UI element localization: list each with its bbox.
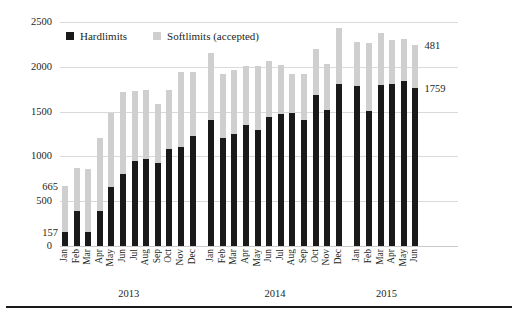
- bar-segment-softlimits: [378, 33, 384, 85]
- bar-segment-hardlimits: [97, 211, 103, 246]
- x-tick-label-29: Jun: [410, 249, 422, 262]
- legend-item-hard[interactable]: Hardlimits: [66, 30, 127, 42]
- y-tick-label-500: 500: [6, 196, 52, 206]
- bar-segment-softlimits: [266, 61, 272, 117]
- gridline-0: [60, 246, 458, 247]
- group-label-2013: 2013: [62, 288, 196, 299]
- bar-Apr-15[interactable]: [243, 66, 249, 246]
- bar-segment-hardlimits: [401, 81, 407, 246]
- bar-segment-softlimits: [155, 104, 161, 162]
- bar-segment-hardlimits: [166, 149, 172, 246]
- bar-segment-hardlimits: [278, 114, 284, 246]
- group-label-2015: 2015: [354, 288, 418, 299]
- y-tick-label-1500: 1500: [6, 107, 52, 117]
- legend-label: Hardlimits: [80, 30, 127, 42]
- bar-segment-hardlimits: [220, 138, 226, 246]
- bar-segment-hardlimits: [266, 117, 272, 246]
- bar-Oct-9[interactable]: [166, 90, 172, 246]
- gridline-2500: [60, 22, 458, 23]
- bar-May-4[interactable]: [108, 113, 114, 247]
- bar-segment-hardlimits: [143, 159, 149, 246]
- annotation-481: 481: [424, 41, 440, 52]
- bar-May-28[interactable]: [401, 39, 407, 246]
- y-tick-label-0: 0: [6, 241, 52, 251]
- bar-segment-softlimits: [324, 64, 330, 110]
- bar-segment-hardlimits: [336, 84, 342, 246]
- bar-segment-softlimits: [301, 74, 307, 121]
- bar-segment-hardlimits: [155, 163, 161, 246]
- bar-Dec-23[interactable]: [336, 28, 342, 246]
- bar-segment-hardlimits: [85, 232, 91, 246]
- bar-segment-softlimits: [190, 72, 196, 136]
- bar-segment-softlimits: [97, 138, 103, 211]
- bar-Feb-13[interactable]: [220, 74, 226, 246]
- y-tick-label-2500: 2500: [6, 17, 52, 27]
- bar-segment-hardlimits: [255, 130, 261, 246]
- bar-segment-softlimits: [366, 43, 372, 111]
- footer-rule: [6, 306, 512, 308]
- bar-Jan-12[interactable]: [208, 53, 214, 246]
- bar-segment-hardlimits: [190, 136, 196, 246]
- bar-segment-hardlimits: [243, 125, 249, 246]
- bar-segment-hardlimits: [354, 86, 360, 246]
- bar-Mar-14[interactable]: [231, 70, 237, 246]
- bar-segment-hardlimits: [313, 95, 319, 246]
- bar-segment-softlimits: [412, 45, 418, 88]
- bar-segment-hardlimits: [108, 187, 114, 246]
- bar-Oct-21[interactable]: [313, 49, 319, 246]
- bar-segment-softlimits: [166, 90, 172, 149]
- bar-Apr-3[interactable]: [97, 138, 103, 246]
- bar-segment-softlimits: [313, 49, 319, 94]
- plot-area: [60, 22, 458, 246]
- bar-segment-softlimits: [85, 169, 91, 232]
- legend-swatch-soft-icon: [153, 32, 161, 40]
- bar-segment-softlimits: [336, 28, 342, 84]
- bar-Aug-19[interactable]: [289, 74, 295, 246]
- bar-Aug-7[interactable]: [143, 90, 149, 246]
- bar-segment-hardlimits: [178, 147, 184, 246]
- bar-Mar-26[interactable]: [378, 33, 384, 246]
- bar-Feb-1[interactable]: [74, 168, 80, 246]
- x-tick-label-23: Dec: [334, 249, 346, 264]
- bar-Dec-11[interactable]: [190, 72, 196, 246]
- bar-segment-hardlimits: [301, 120, 307, 246]
- y-tick-label-1000: 1000: [6, 151, 52, 161]
- y-tick-label-2000: 2000: [6, 62, 52, 72]
- bar-Feb-25[interactable]: [366, 43, 372, 246]
- bar-segment-softlimits: [401, 39, 407, 81]
- bar-Jul-6[interactable]: [132, 91, 138, 246]
- bar-Mar-2[interactable]: [85, 169, 91, 246]
- bar-Jan-0[interactable]: [62, 186, 68, 246]
- bar-segment-hardlimits: [62, 232, 68, 246]
- bar-segment-softlimits: [62, 186, 68, 232]
- bar-Jun-5[interactable]: [120, 92, 126, 246]
- annotation-665: 665: [22, 182, 58, 193]
- bar-Apr-27[interactable]: [389, 40, 395, 246]
- bar-segment-softlimits: [354, 42, 360, 86]
- bar-segment-hardlimits: [120, 174, 126, 246]
- bar-segment-hardlimits: [208, 120, 214, 246]
- bar-May-16[interactable]: [255, 66, 261, 246]
- bar-Nov-10[interactable]: [178, 72, 184, 246]
- bar-segment-softlimits: [243, 66, 249, 124]
- bar-Sep-8[interactable]: [155, 104, 161, 246]
- bar-segment-hardlimits: [412, 88, 418, 246]
- legend-label: Softlimits (accepted): [167, 30, 259, 42]
- chart-figure: 05001000150020002500 JanFebMarAprMayJunJ…: [0, 0, 518, 322]
- bar-segment-softlimits: [231, 70, 237, 134]
- bar-segment-hardlimits: [231, 134, 237, 246]
- bar-segment-hardlimits: [289, 113, 295, 246]
- bar-segment-softlimits: [389, 40, 395, 84]
- x-tick-label-11: Dec: [188, 249, 200, 264]
- bar-segment-softlimits: [208, 53, 214, 119]
- bar-Jul-18[interactable]: [278, 65, 284, 246]
- bar-Jun-29[interactable]: [412, 45, 418, 246]
- bar-segment-hardlimits: [389, 84, 395, 246]
- bar-Nov-22[interactable]: [324, 64, 330, 246]
- bar-Jan-24[interactable]: [354, 42, 360, 246]
- bar-Jun-17[interactable]: [266, 61, 272, 246]
- bar-Sep-20[interactable]: [301, 74, 307, 246]
- bar-segment-hardlimits: [132, 161, 138, 246]
- group-label-2014: 2014: [208, 288, 342, 299]
- legend-item-soft[interactable]: Softlimits (accepted): [153, 30, 259, 42]
